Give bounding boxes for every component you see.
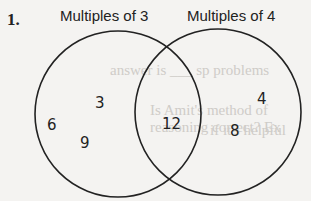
set-a-circle [35, 31, 201, 197]
set-b-circle [135, 29, 301, 195]
value-9: 9 [80, 134, 90, 152]
value-3: 3 [95, 94, 105, 112]
value-6: 6 [47, 116, 57, 134]
value-4: 4 [257, 90, 267, 108]
value-12: 12 [162, 115, 181, 133]
venn-diagram: 3 6 9 12 4 8 [0, 0, 311, 201]
value-8: 8 [230, 122, 240, 140]
